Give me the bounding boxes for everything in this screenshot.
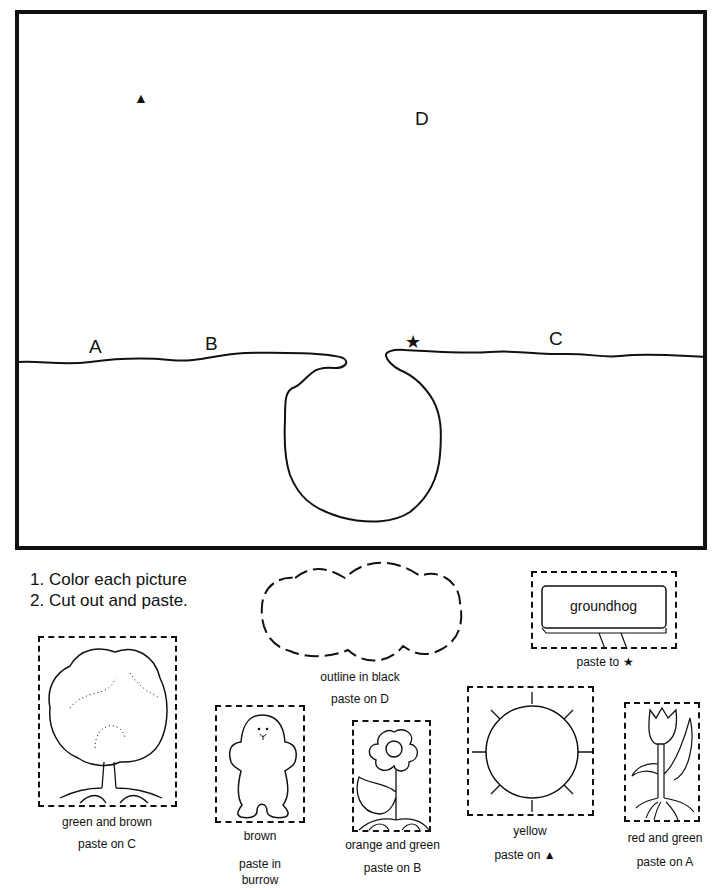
cloud-caption-1: outline in black [305,670,415,684]
label-triangle: ▲ [134,90,148,106]
tree-caption-2: paste on C [47,837,167,851]
tulip-cutout[interactable] [624,702,700,822]
label-c: C [549,328,563,350]
sign-text: groundhog [570,598,637,614]
label-a: A [89,336,102,358]
cloud-cutout[interactable] [255,558,467,668]
groundhog-caption-2: paste in [220,857,300,871]
sun-caption-2: paste on ▲ [475,848,575,862]
groundhog-caption-3: burrow [220,873,300,887]
label-d: D [415,108,429,130]
sun-cutout[interactable] [467,686,594,816]
groundhog-caption-1: brown [220,829,300,843]
tree-caption-1: green and brown [47,815,167,829]
ground-line [17,350,705,522]
sign-caption: paste to ★ [560,655,650,669]
flower-cutout[interactable] [352,720,431,832]
flower-caption-2: paste on B [330,861,455,875]
sun-caption-1: yellow [490,824,570,838]
flower-caption-1: orange and green [330,838,455,852]
cloud-caption-2: paste on D [305,692,415,706]
groundhog-cutout[interactable] [215,705,305,823]
sign-cutout[interactable]: groundhog [531,571,677,649]
scene-frame [0,0,721,560]
tulip-caption-2: paste on A [615,855,715,869]
label-star: ★ [405,331,421,353]
tulip-caption-1: red and green [615,831,715,845]
instruction-1: 1. Color each picture [30,569,187,590]
instruction-2: 2. Cut out and paste. [30,590,188,611]
label-b: B [205,333,218,355]
tree-cutout[interactable] [38,636,177,807]
